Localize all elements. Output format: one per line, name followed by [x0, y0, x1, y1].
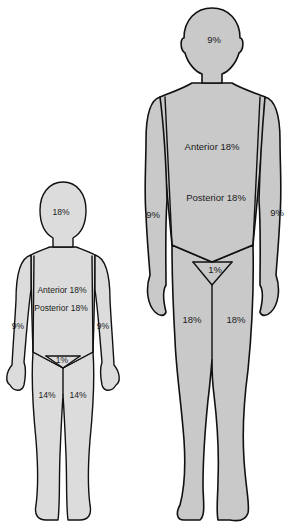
child-figure	[7, 182, 119, 520]
adult-right-arm	[259, 97, 281, 315]
adult-perineum-label: 1%	[208, 265, 222, 275]
child-anterior-trunk-label: Anterior 18%	[37, 286, 86, 295]
adult-left-arm	[145, 97, 167, 315]
child-right-arm-seam	[92, 256, 93, 352]
adult-right-arm-label: 9%	[270, 208, 284, 218]
adult-head	[181, 8, 243, 83]
child-left-arm-label: 9%	[12, 322, 24, 331]
adult-anterior-trunk-label: Anterior 18%	[185, 142, 240, 152]
child-right-leg-label: 14%	[69, 391, 86, 400]
child-right-arm-label: 9%	[97, 322, 109, 331]
adult-torso	[160, 83, 265, 262]
child-left-leg-label: 14%	[38, 391, 55, 400]
child-posterior-trunk-label: Posterior 18%	[34, 304, 87, 313]
adult-posterior-trunk-label: Posterior 18%	[186, 193, 246, 203]
adult-left-arm-label: 9%	[146, 210, 160, 220]
adult-right-leg-label: 18%	[226, 315, 245, 325]
child-perineum-label: 1%	[56, 356, 68, 365]
adult-left-leg-label: 18%	[182, 315, 201, 325]
figures-svg	[0, 0, 296, 528]
rule-of-nines-diagram: 9% Anterior 18% Posterior 18% 9% 9% 1% 1…	[0, 0, 296, 528]
adult-head-label: 9%	[207, 35, 221, 45]
child-head-label: 18%	[52, 208, 69, 217]
